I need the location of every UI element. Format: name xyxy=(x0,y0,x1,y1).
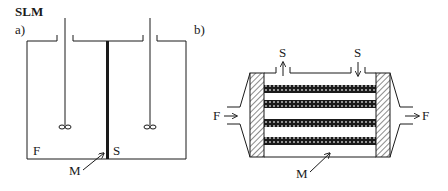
membrane-b-pointer-arrow xyxy=(310,153,330,172)
panel-a-label: a) xyxy=(15,23,25,36)
end-plate-left xyxy=(250,73,264,157)
panel-b-membrane-label: M xyxy=(296,167,308,180)
panel-b-feed-in-label: F xyxy=(213,109,220,122)
panel-a-membrane-label: M xyxy=(69,164,81,177)
panel-b-feed-out-label: F xyxy=(422,109,429,122)
figure-title: SLM xyxy=(15,5,43,18)
end-plate-right xyxy=(376,73,390,157)
membrane-strip-4 xyxy=(264,137,376,145)
membrane-strip-1 xyxy=(264,85,376,93)
panel-b-strip-out-label: S xyxy=(279,46,286,59)
panel-a-strip-label: S xyxy=(113,144,120,157)
slm-diagram xyxy=(0,0,448,191)
panel-b-strip-in-label: S xyxy=(354,46,361,59)
membrane-a-pointer-arrow xyxy=(83,153,104,170)
panel-a-feed-label: F xyxy=(33,144,40,157)
membrane-strip-3 xyxy=(264,119,376,127)
membrane-strip-2 xyxy=(264,100,376,108)
panel-b-label: b) xyxy=(194,23,205,36)
